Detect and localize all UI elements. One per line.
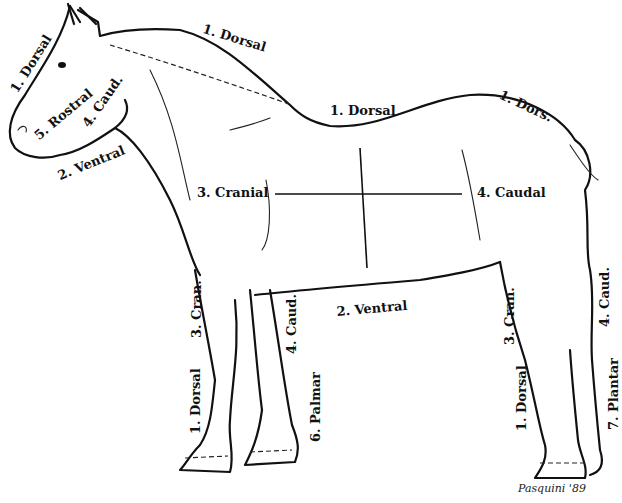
label-hindleg-cranial: 3. Cran. [503,287,516,345]
mane-line [110,45,292,105]
label-foreleg-dorsal: 1. Dorsal [189,368,202,434]
label-foreleg-caudal: 4. Caud. [285,294,298,354]
label-foreleg-cranial: 3. Cran. [190,280,203,338]
belly-outline [255,262,500,295]
ear-outline [68,4,96,24]
head-outline [70,6,590,270]
artist-signature: Pasquini '89 [518,482,586,495]
muscle-line [230,118,270,130]
label-hindleg-caudal: 4. Caud. [598,267,611,327]
eye [58,62,66,68]
label-trunk-caudal: 4. Caudal [477,186,546,199]
dorsoventral-axis [360,148,367,268]
label-foreleg-palmar: 6. Palmar [309,372,322,442]
horse-anatomy-diagram: 1. Dorsal 5. Rostral 4. Caud. 2. Ventral… [0,0,622,503]
hoof-line-2 [250,450,292,452]
label-back-dorsal: 1. Dorsal [330,104,396,117]
nostril [18,126,26,132]
label-trunk-cranial: 3. Cranial [197,186,268,199]
shoulder-line [150,70,190,200]
label-hindleg-dorsal: 1. Dorsal [515,365,528,431]
throat-outline [115,128,200,275]
label-hindleg-plantar: 7. Plantar [607,358,620,430]
